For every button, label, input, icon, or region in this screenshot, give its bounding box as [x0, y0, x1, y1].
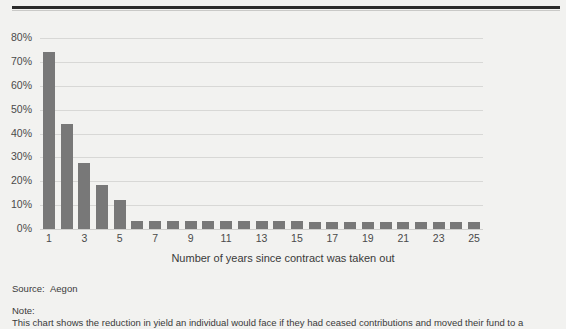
x-axis-label: 7 [140, 232, 170, 245]
bar [273, 221, 285, 229]
bar [238, 221, 250, 229]
bar [433, 222, 445, 229]
bar [309, 222, 321, 229]
x-axis-label: 23 [424, 232, 454, 245]
bar [362, 222, 374, 229]
source-label: Source: [12, 283, 50, 295]
y-axis-label: 40% [0, 128, 32, 139]
note-label: Note: [12, 305, 50, 317]
x-axis-label: 3 [69, 232, 99, 245]
x-axis-label: 15 [282, 232, 312, 245]
y-axis-label: 0% [0, 223, 32, 234]
plot-area [40, 38, 483, 229]
x-axis-title: Number of years since contract was taken… [0, 252, 566, 264]
bar [291, 221, 303, 229]
source-row: Source:Aegon [12, 283, 560, 295]
header-rule [12, 6, 560, 9]
y-axis-label: 50% [0, 104, 32, 115]
x-axis-label: 17 [317, 232, 347, 245]
bar [220, 221, 232, 229]
bar [344, 222, 356, 229]
bar [167, 221, 179, 229]
bar [96, 185, 108, 229]
y-axis-label: 20% [0, 175, 32, 186]
x-axis-label: 11 [211, 232, 241, 245]
bar [43, 52, 55, 229]
bar-chart: 80%70%60%50%40%30%20%10%0% 1357911131517… [0, 20, 566, 270]
note-row: Note:This chart shows the reduction in y… [12, 305, 560, 329]
y-axis-label: 70% [0, 56, 32, 67]
x-axis-label: 9 [176, 232, 206, 245]
bar [131, 221, 143, 229]
axis-baseline [40, 229, 483, 230]
x-axis-label: 19 [353, 232, 383, 245]
bar [78, 163, 90, 229]
y-axis-label: 30% [0, 151, 32, 162]
bar [185, 221, 197, 229]
bar [61, 124, 73, 229]
x-axis-ticks: 135791113151719212325 [40, 232, 483, 248]
bar [397, 222, 409, 229]
bar [326, 222, 338, 229]
bar [202, 221, 214, 229]
x-axis-label: 25 [459, 232, 489, 245]
bar [114, 200, 126, 229]
bar [149, 221, 161, 229]
bar [450, 222, 462, 229]
bar [468, 222, 480, 229]
bar [256, 221, 268, 229]
bar [415, 222, 427, 229]
y-axis-label: 10% [0, 199, 32, 210]
bar-series [40, 38, 483, 229]
x-axis-label: 13 [247, 232, 277, 245]
x-axis-label: 21 [388, 232, 418, 245]
source-value: Aegon [50, 283, 77, 295]
x-axis-label: 1 [34, 232, 64, 245]
x-axis-label: 5 [105, 232, 135, 245]
bar [380, 222, 392, 229]
header-rule-shadow [12, 10, 560, 11]
y-axis-label: 80% [0, 32, 32, 43]
y-axis-label: 60% [0, 80, 32, 91]
note-value: This chart shows the reduction in yield … [12, 317, 523, 329]
